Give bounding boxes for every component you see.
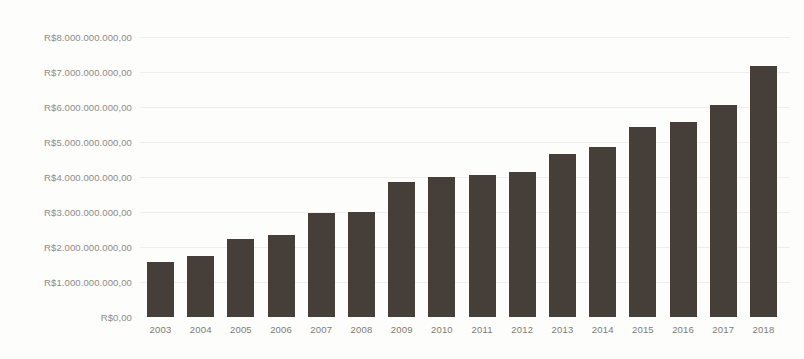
bar: [308, 213, 335, 317]
bar: [710, 105, 737, 317]
x-axis: 2003200420052006200720082009201020112012…: [0, 320, 804, 350]
x-axis-tick-label: 2015: [632, 324, 654, 335]
x-axis-tick-label: 2012: [511, 324, 533, 335]
x-axis-tick-label: 2013: [552, 324, 574, 335]
x-axis-tick-label: 2004: [190, 324, 212, 335]
x-axis-tick-label: 2003: [150, 324, 172, 335]
bar: [147, 262, 174, 317]
bar: [227, 239, 254, 317]
x-axis-tick-label: 2006: [270, 324, 292, 335]
bar: [750, 66, 777, 317]
bar: [268, 235, 295, 317]
bar: [187, 256, 214, 317]
bar: [670, 122, 697, 317]
bar: [388, 182, 415, 317]
bar: [589, 147, 616, 317]
x-axis-tick-label: 2009: [391, 324, 413, 335]
bar: [549, 154, 576, 317]
x-axis-tick-label: 2005: [230, 324, 252, 335]
x-axis-tick-label: 2008: [351, 324, 373, 335]
bar: [629, 127, 656, 317]
x-axis-tick-label: 2007: [310, 324, 332, 335]
bar-chart: R$0,00R$1.000.000.000,00R$2.000.000.000,…: [0, 0, 804, 359]
x-axis-tick-label: 2017: [712, 324, 734, 335]
x-axis-tick-label: 2016: [672, 324, 694, 335]
bar: [348, 212, 375, 317]
bar: [428, 177, 455, 317]
x-axis-tick-label: 2018: [753, 324, 775, 335]
x-axis-tick-label: 2014: [592, 324, 614, 335]
x-axis-tick-label: 2010: [431, 324, 453, 335]
bar: [469, 175, 496, 317]
bar: [509, 172, 536, 317]
x-axis-tick-label: 2011: [471, 324, 492, 335]
bars-group: [0, 0, 804, 359]
